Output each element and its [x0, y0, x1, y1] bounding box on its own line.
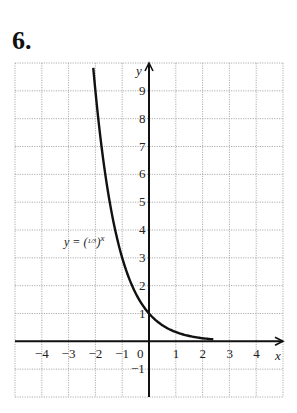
exponential-curve	[93, 68, 213, 340]
y-axis-label: y	[134, 63, 142, 78]
x-tick-label: −3	[62, 346, 76, 361]
y-tick-label: 3	[139, 250, 146, 265]
y-tick-label: 9	[139, 83, 146, 98]
y-tick-label: 2	[139, 278, 146, 293]
y-tick-label: 5	[139, 194, 146, 209]
y-tick-label: 6	[139, 166, 146, 181]
y-tick-label: −1	[131, 361, 145, 376]
curve-label: y = (1/3)x	[63, 233, 104, 249]
x-axis-label: x	[274, 348, 281, 363]
y-tick-label: 4	[139, 222, 146, 237]
x-tick-label: 4	[253, 346, 260, 361]
x-tick-label: 2	[200, 346, 207, 361]
graph: −4−3−2−101234987654321−1 x y y = (1/3)x	[0, 0, 297, 413]
x-tick-label: −1	[115, 346, 129, 361]
x-tick-label: 1	[173, 346, 180, 361]
x-tick-label: −2	[88, 346, 102, 361]
y-tick-label: 8	[139, 111, 146, 126]
y-tick-label: 7	[139, 139, 146, 154]
y-tick-label: 1	[139, 306, 146, 321]
x-tick-label: −4	[35, 346, 49, 361]
axes	[15, 63, 283, 397]
x-tick-label: 3	[226, 346, 233, 361]
x-tick-label: 0	[137, 346, 144, 361]
